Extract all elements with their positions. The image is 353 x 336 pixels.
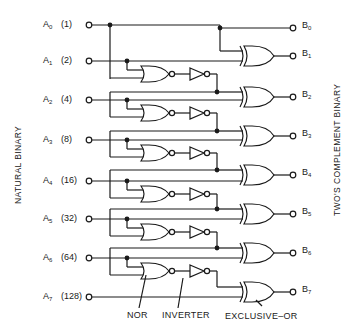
input-label-a6: A6(64) [43, 252, 52, 265]
output-label-b7: B7 [302, 284, 311, 297]
output-label-b4: B4 [302, 167, 311, 180]
xor-input-arc [240, 243, 243, 263]
logic-circuit [0, 0, 353, 336]
nor-caption: NOR [127, 310, 148, 320]
natural-binary-label: NATURAL BINARY [13, 125, 23, 205]
input-label-a2: A2(4) [43, 94, 52, 107]
inverter-bubble [204, 268, 209, 273]
output-terminal [290, 250, 296, 256]
inverter-gate-icon [190, 68, 204, 80]
output-label-b3: B3 [302, 128, 311, 141]
inverter-bubble [204, 71, 209, 76]
output-label-b2: B2 [302, 89, 311, 102]
xor-gate-icon [244, 46, 274, 66]
inverter-bubble [204, 110, 209, 115]
nor-bubble [169, 229, 174, 234]
xor-input-arc [240, 87, 243, 107]
xor-input-arc [240, 282, 243, 302]
twos-complement-label: TWO'S COMPLEMENT BINARY [332, 86, 342, 216]
output-terminal [290, 289, 296, 295]
inverter-gate-icon [190, 147, 204, 159]
xor-gate-icon [244, 165, 274, 185]
inverter-gate-icon [190, 107, 204, 119]
xor-caption: EXCLUSIVE–OR [225, 311, 298, 321]
input-label-a1: A1(2) [43, 55, 52, 68]
input-label-a5: A5(32) [43, 213, 52, 226]
output-terminal [290, 133, 296, 139]
xor-gate-icon [244, 126, 274, 146]
input-label-a3: A3(8) [43, 134, 52, 147]
nor-gate-icon [141, 105, 169, 121]
xor-gate-icon [244, 243, 274, 263]
xor-input-arc [240, 165, 243, 185]
output-label-b0: B0 [302, 20, 311, 33]
input-terminal [86, 58, 92, 64]
input-label-a4: A4(16) [43, 175, 52, 188]
inverter-bubble [204, 150, 209, 155]
inverter-gate-icon [190, 265, 204, 277]
nor-bubble [169, 150, 174, 155]
xor-input-arc [240, 126, 243, 146]
output-terminal [290, 172, 296, 178]
output-terminal [290, 53, 296, 59]
input-label-a7: A7(128) [43, 291, 52, 304]
xor-input-arc [240, 46, 243, 66]
nor-bubble [169, 268, 174, 273]
nor-gate-icon [141, 224, 169, 240]
output-label-b6: B6 [302, 245, 311, 258]
inverter-gate-icon [190, 226, 204, 238]
inverter-bubble [204, 229, 209, 234]
inverter-caption: INVERTER [162, 310, 210, 320]
nor-bubble [169, 191, 174, 196]
output-label-b5: B5 [302, 206, 311, 219]
input-label-a0: A0(1) [43, 19, 52, 32]
nor-gate-icon [141, 186, 169, 202]
input-terminal [86, 216, 92, 222]
input-terminal [86, 137, 92, 143]
inverter-pointer [178, 278, 183, 308]
input-terminal [86, 294, 92, 300]
xor-gate-icon [244, 87, 274, 107]
nor-pointer [139, 275, 146, 308]
output-terminal [290, 94, 296, 100]
nor-gate-icon [141, 145, 169, 161]
input-terminal [86, 178, 92, 184]
input-terminal [86, 22, 92, 28]
output-label-b1: B1 [302, 48, 311, 61]
xor-input-arc [240, 204, 243, 224]
nor-bubble [169, 110, 174, 115]
xor-gate-icon [244, 204, 274, 224]
output-terminal [290, 211, 296, 217]
xor-gate-icon [244, 282, 274, 302]
output-terminal [290, 25, 296, 31]
input-terminal [86, 255, 92, 261]
input-terminal [86, 97, 92, 103]
inverter-bubble [204, 191, 209, 196]
nor-gate-icon [141, 66, 169, 82]
nor-bubble [169, 71, 174, 76]
inverter-gate-icon [190, 188, 204, 200]
